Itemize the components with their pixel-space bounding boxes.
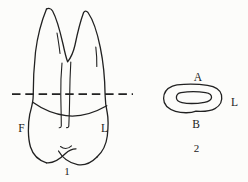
fig2-label-bottom: B [192, 118, 200, 130]
figure-2-cross-section: A L B 2 [164, 71, 238, 154]
diagram-stage: F L 1 A L B 2 [0, 0, 248, 182]
fig2-label-top: A [194, 71, 203, 83]
figure-1-tooth: F L 1 [12, 8, 133, 177]
fig1-label-facial: F [18, 122, 24, 134]
crown-occlusal-groove-chevron [61, 146, 72, 149]
fig1-label-lingual: L [101, 122, 108, 134]
left-root-inner-line [57, 33, 60, 54]
fig2-label-right: L [231, 96, 238, 108]
fig2-caption: 2 [194, 142, 200, 154]
tooth-outline-left [28, 9, 46, 163]
tooth-outline-right-and-roots [47, 8, 109, 157]
root-canal-line-left [59, 63, 62, 128]
right-root-inner-line [96, 47, 97, 67]
cross-section-pulp-outline [176, 92, 211, 104]
fig1-caption: 1 [64, 165, 70, 177]
crown-occlusal-lingual-cusp [59, 151, 98, 165]
tooth-diagram-svg: F L 1 A L B 2 [0, 0, 248, 182]
cross-section-outer-outline [164, 84, 222, 113]
